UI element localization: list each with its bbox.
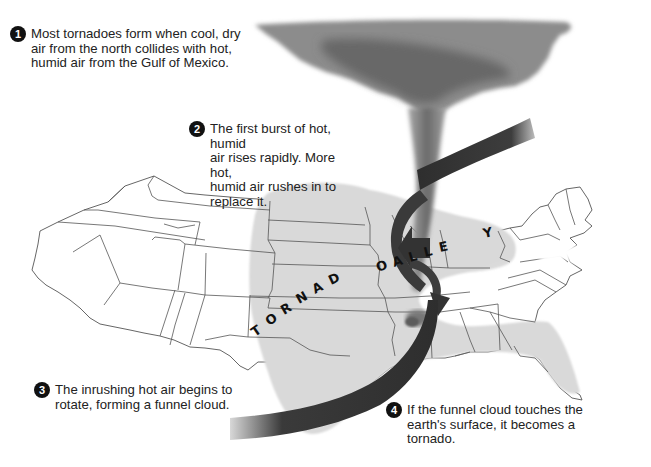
step-description: Most tornadoes form when cool, dry air f… xyxy=(31,27,241,71)
step-description: The first burst of hot, humid air rises … xyxy=(210,122,339,210)
step-number-badge: 1 xyxy=(10,26,26,42)
step-4: 4 If the funnel cloud touches the earth'… xyxy=(386,403,626,447)
step-1: 1 Most tornadoes form when cool, dry air… xyxy=(10,27,250,71)
step-2: 2 The first burst of hot, humid air rise… xyxy=(189,122,339,210)
tornado-formation-diagram: T O R N A D O A L L E Y 1 Most tornadoes… xyxy=(0,0,651,467)
step-number-badge: 2 xyxy=(189,121,205,137)
step-description: The inrushing hot air begins to rotate, … xyxy=(55,383,232,412)
step-number-badge: 4 xyxy=(386,402,402,418)
figure-title xyxy=(0,0,260,4)
step-3: 3 The inrushing hot air begins to rotate… xyxy=(34,383,234,412)
step-description: If the funnel cloud touches the earth's … xyxy=(407,403,583,447)
step-number-badge: 3 xyxy=(34,382,50,398)
storm-cloud xyxy=(255,20,571,116)
